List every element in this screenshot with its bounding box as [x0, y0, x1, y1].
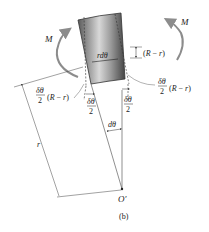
svg-text:2: 2: [89, 107, 93, 116]
shift-label-left: δθ 2 (R − r): [36, 86, 69, 105]
radial-line-left: [91, 84, 122, 189]
element-label: rdθ: [97, 51, 108, 60]
leader-left: [74, 84, 84, 98]
offset-label: (R − r): [143, 49, 165, 58]
moment-arrow-left: [57, 31, 78, 77]
half-angle-label-left: δθ 2: [87, 97, 96, 116]
radius-label: r: [37, 140, 41, 149]
svg-text:(R − r): (R − r): [47, 93, 69, 102]
svg-text:(R − r): (R − r): [169, 84, 191, 93]
radius-ext-top: [14, 67, 83, 87]
center-point: [121, 188, 123, 190]
center-label: O′: [118, 194, 127, 204]
svg-text:2: 2: [126, 105, 130, 114]
shift-label-right: δθ 2 (R − r): [158, 77, 191, 96]
svg-text:δθ: δθ: [124, 95, 132, 104]
moment-label-right: M: [180, 17, 189, 27]
half-angle-label-right: δθ 2: [124, 95, 133, 114]
moment-label-left: M: [44, 34, 53, 44]
svg-text:δθ: δθ: [87, 97, 95, 106]
curved-beam-element-diagram: M M (R − r) δθ 2 (R − r) δθ 2 (R − r) rd…: [0, 0, 209, 232]
figure-caption: (b): [119, 212, 129, 221]
dashed-edge-left-2: [84, 86, 86, 100]
angle-dim: [108, 129, 121, 131]
svg-text:δθ: δθ: [158, 77, 166, 86]
svg-text:2: 2: [160, 87, 164, 96]
angle-label: dθ: [108, 120, 116, 129]
leader-right: [128, 75, 155, 85]
svg-text:δθ: δθ: [36, 86, 44, 95]
radius-ext-bottom: [57, 190, 121, 197]
svg-text:2: 2: [38, 96, 42, 105]
